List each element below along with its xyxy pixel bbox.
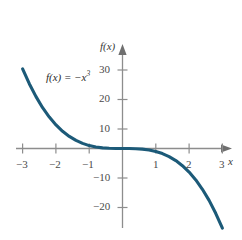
y-tick-label-20: 20 bbox=[99, 93, 110, 104]
function-equation-annotation: f(x) = −x3 bbox=[46, 72, 90, 83]
y-tick-label-30: 30 bbox=[99, 64, 110, 75]
x-tick-label-neg2: −2 bbox=[49, 159, 61, 170]
x-tick-label-pos1: 1 bbox=[153, 159, 159, 170]
figure-cubic-function-plot: f(x) x 30 20 10 −10 −20 −3 −2 −1 1 2 3 f… bbox=[0, 0, 242, 240]
equation-base: f(x) = −x bbox=[46, 71, 87, 83]
x-tick-label-pos2: 2 bbox=[186, 159, 192, 170]
y-tick-label-neg10: −10 bbox=[93, 172, 110, 183]
x-axis-label: x bbox=[228, 156, 233, 167]
x-tick-label-neg3: −3 bbox=[16, 159, 28, 170]
x-tick-label-pos3: 3 bbox=[219, 159, 225, 170]
plot-canvas bbox=[0, 0, 242, 240]
equation-exponent: 3 bbox=[87, 69, 91, 78]
y-tick-label-neg20: −20 bbox=[93, 201, 110, 212]
y-tick-label-10: 10 bbox=[99, 123, 110, 134]
x-tick-label-neg1: −1 bbox=[82, 159, 94, 170]
y-axis-arrowhead bbox=[118, 44, 126, 55]
y-axis-label: f(x) bbox=[100, 41, 115, 52]
